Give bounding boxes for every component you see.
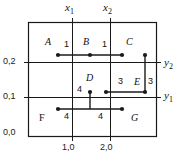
- node-c-right: [143, 53, 147, 57]
- node-d: [88, 90, 92, 94]
- edge-weight-mid-g: 4: [98, 112, 103, 121]
- diagram-canvas: 0,2 0,1 0,0 1,0 2,0 x1 x2 y2 y1 A B C D …: [0, 0, 184, 158]
- edge-weight-b-c: 1: [102, 40, 107, 49]
- edge-weight-d-e: 3: [118, 77, 123, 86]
- node-c: [120, 53, 124, 57]
- node-a: [56, 53, 60, 57]
- axis-var-y2: y2: [164, 57, 173, 71]
- y-tick-label-0-1: 0,1: [3, 92, 16, 101]
- region-label-c: C: [126, 37, 133, 47]
- region-label-b: B: [83, 37, 89, 47]
- region-label-e: E: [134, 77, 140, 87]
- node-b: [88, 53, 92, 57]
- x-tick-label-1-0: 1,0: [62, 143, 75, 152]
- axis-var-x1: x1: [65, 2, 74, 16]
- axis-var-x2-sub: 2: [108, 7, 112, 16]
- edge-weight-a-b: 1: [64, 40, 69, 49]
- node-f: [56, 107, 60, 111]
- axis-var-y2-sub: 2: [169, 62, 173, 71]
- y-tick-label-0-0: 0,0: [3, 128, 16, 137]
- edge-weight-f-mid: 4: [64, 112, 69, 121]
- node-d-right: [104, 90, 108, 94]
- axis-var-x1-sub: 1: [70, 7, 74, 16]
- region-label-d: D: [86, 73, 93, 83]
- x-tick-label-2-0: 2,0: [100, 143, 113, 152]
- region-label-a: A: [45, 37, 51, 47]
- edge-weight-c-e: 3: [148, 77, 153, 86]
- axis-var-y1-sub: 1: [169, 95, 173, 104]
- axis-var-x2: x2: [103, 2, 112, 16]
- y-tick-label-0-2: 0,2: [3, 57, 16, 66]
- region-label-g: G: [131, 113, 138, 123]
- axis-var-y1: y1: [164, 90, 173, 104]
- region-label-f: F: [39, 113, 45, 123]
- edge-weight-d-f: 4: [77, 85, 82, 94]
- node-g: [120, 107, 124, 111]
